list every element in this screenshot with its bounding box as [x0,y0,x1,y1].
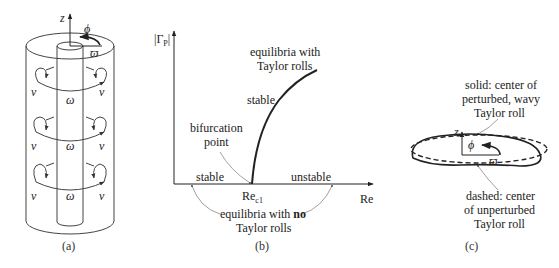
roll-3-omega: ω [66,189,74,203]
dashed-label-line2: of unperturbed [464,203,535,217]
bifurcation-label-line2: point [204,135,229,149]
panel-a-caption: (a) [62,239,75,253]
roll-3-left-v: v [31,189,37,203]
panel-b-caption: (b) [255,239,269,253]
phi-arrow [80,37,100,45]
varpi-label-c: ϖ [489,154,498,168]
varpi-label: ϖ [90,46,99,60]
dashed-label-line3: Taylor roll [474,217,525,231]
bifurcation-label-line1: bifurcation [190,121,243,135]
right-stability-label: unstable [291,170,331,184]
roll-1-omega: ω [66,93,74,107]
dashed-label-line1: dashed: center [466,189,535,203]
branch-label-line1: equilibria with [250,45,320,59]
y-axis-label: |ΓP| [154,32,170,48]
taylor-roll-row-1 [35,67,106,91]
taylor-roll-row-2 [34,117,107,141]
roll-1-left-v: v [31,85,37,99]
panel-c-caption: (c) [465,239,478,253]
solid-label-line2: perturbed, wavy [462,92,540,106]
perturbed-roll-solid [412,134,541,166]
z-axis-label: z [59,11,65,25]
roll-3-right-v: v [99,189,105,203]
no-rolls-label-line1: equilibria with no [220,207,306,221]
phi-label-c: ϕ [468,138,474,152]
z-axis-label-c: z [453,125,459,139]
taylor-roll-row-3 [34,163,107,190]
unperturbed-roll-dashed [411,135,547,163]
no-rolls-pointer-left [192,186,220,214]
panel-a-cylinder-diagram: z ϕ ϖ v ω v v ω v [26,11,114,253]
panel-b-bifurcation-diagram: |ΓP| Re equilibria with Taylor rolls sta… [154,31,373,253]
roll-1-right-v: v [99,85,105,99]
phi-label: ϕ [84,22,90,36]
solid-label-line1: solid: center of [465,78,537,92]
roll-2-omega: ω [66,139,74,153]
critical-re-label: Rec1 [242,189,263,205]
solid-label-line3: Taylor roll [474,106,525,120]
roll-2-right-v: v [99,139,105,153]
branch-stability-label: stable [247,93,275,107]
left-stability-label: stable [196,170,224,184]
roll-2-left-v: v [31,139,37,153]
bifurcation-pointer [220,152,250,183]
branch-label-line2: Taylor rolls [257,59,313,73]
no-rolls-pointer-right [302,186,332,214]
no-rolls-label-line2: Taylor rolls [236,221,292,235]
panel-c-wavy-roll-diagram: solid: center of perturbed, wavy Taylor … [411,78,547,253]
taylor-roll-branch-curve [252,70,317,184]
dashed-pointer [478,166,498,190]
solid-pointer [478,119,498,134]
x-axis-label: Re [360,192,373,206]
